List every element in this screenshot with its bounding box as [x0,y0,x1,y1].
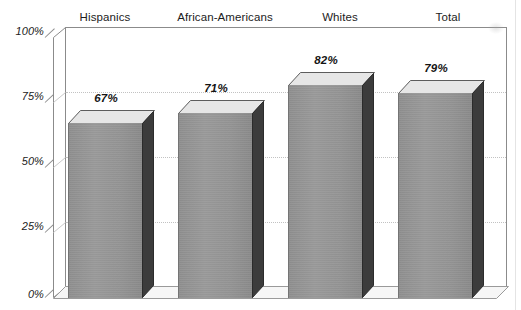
category-label-total: Total [398,11,498,23]
y-tick-label-75: 75% [22,90,44,102]
category-label-african-americans: African-Americans [150,11,300,23]
data-label-hispanics: 67% [66,92,146,104]
data-label-african-americans: 71% [176,82,256,94]
scan-right-edge [515,0,516,310]
y-tick-label-0: 0% [28,288,44,300]
y-tick-label-100: 100% [15,25,44,37]
bar-whites [288,72,363,298]
bar-african-americans [178,100,253,298]
bar-total [398,80,473,298]
bar-front-hispanics [68,123,143,298]
data-label-total: 79% [396,62,476,74]
bar-side-whites [362,72,374,298]
bar-side-hispanics [142,110,154,298]
bar-chart: Hispanics African-Americans Whites Total… [0,0,521,310]
y-axis: 100% 75% 50% 25% 0% [0,0,44,310]
scan-artifact [488,22,504,34]
bar-front-african-americans [178,113,253,298]
bar-side-total [472,80,484,298]
plot-left-wall [53,27,66,298]
bar-hispanics [68,110,143,298]
bar-side-african-americans [252,100,264,298]
y-tick-label-25: 25% [22,220,44,232]
bar-front-total [398,93,473,298]
data-label-whites: 82% [286,54,366,66]
category-label-hispanics: Hispanics [55,11,155,23]
category-label-whites: Whites [290,11,390,23]
y-tick-label-50: 50% [22,155,44,167]
bar-front-whites [288,85,363,298]
